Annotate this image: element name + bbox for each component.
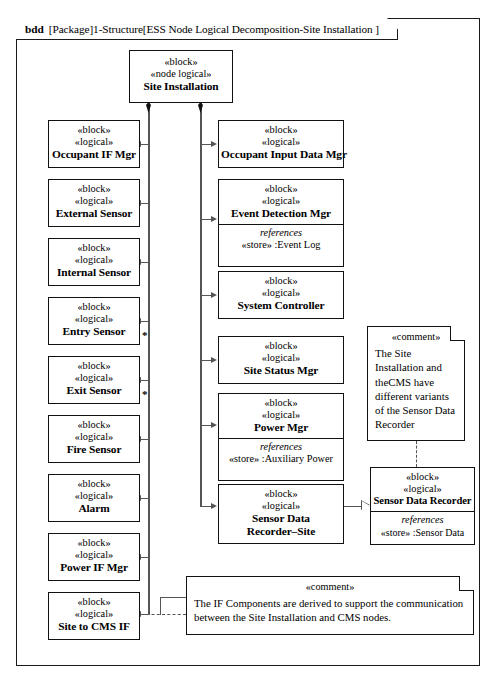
- block-site-status-mgr[interactable]: «block» «logical» Site Status Mgr: [218, 336, 344, 384]
- block-stereotype-logical: «logical»: [221, 500, 341, 512]
- block-stereotype-node: «node logical»: [132, 68, 230, 80]
- comment-if-components[interactable]: «comment» The IF Components are derived …: [186, 576, 474, 635]
- comment-recorder-variants[interactable]: «comment» The Site Installation and theC…: [367, 326, 465, 441]
- block-stereotype-logical: «logical»: [221, 352, 341, 364]
- branch-left-3: [141, 262, 149, 263]
- block-power-if-mgr[interactable]: «block» «logical» Power IF Mgr: [48, 533, 140, 581]
- block-name: Power IF Mgr: [51, 561, 137, 574]
- branch-left-7: [141, 498, 149, 499]
- references-value: «store» :Sensor Data: [373, 527, 472, 539]
- block-stereotype-logical: «logical»: [221, 287, 341, 299]
- block-stereotype: «block»: [373, 471, 472, 483]
- block-stereotype: «block»: [51, 537, 137, 549]
- block-name: Fire Sensor: [51, 443, 137, 456]
- block-stereotype-logical: «logical»: [51, 372, 137, 384]
- branch-left-6: [141, 439, 149, 440]
- note-anchor-if-elbow-v: [160, 597, 161, 615]
- arrow-mid-6: [211, 503, 217, 509]
- block-stereotype: «block»: [221, 340, 341, 352]
- references-label: references: [221, 441, 341, 453]
- arrow-mid-3: [211, 292, 217, 298]
- composition-trunk-middle: [200, 103, 201, 507]
- block-name: Exit Sensor: [51, 384, 137, 397]
- block-stereotype: «block»: [51, 124, 137, 136]
- block-name-line1: Sensor Data: [221, 512, 341, 525]
- block-stereotype: «block»: [51, 183, 137, 195]
- arrow-mid-1: [211, 141, 217, 147]
- block-name: Alarm: [51, 502, 137, 515]
- block-references-compartment: references «store» :Event Log: [219, 224, 343, 255]
- note-anchor-recorder: [416, 441, 417, 467]
- block-external-sensor[interactable]: «block» «logical» External Sensor: [48, 179, 140, 227]
- block-occupant-if-mgr[interactable]: «block» «logical» Occupant IF Mgr: [48, 120, 140, 168]
- note-fold-corner-icon: [459, 576, 474, 591]
- block-stereotype-logical: «logical»: [51, 608, 137, 620]
- block-stereotype: «block»: [221, 124, 341, 136]
- references-value: «store» :Event Log: [221, 239, 341, 251]
- block-name: External Sensor: [51, 207, 137, 220]
- block-name: Site Status Mgr: [221, 364, 341, 377]
- diagram-kind-label: bdd: [25, 23, 44, 35]
- block-stereotype-logical: «logical»: [221, 136, 341, 148]
- block-name: Occupant Input Data Mgr: [221, 148, 341, 161]
- block-stereotype-logical: «logical»: [221, 409, 341, 421]
- block-site-installation[interactable]: «block» «node logical» Site Installation: [129, 50, 233, 103]
- block-exit-sensor[interactable]: «block» «logical» Exit Sensor: [48, 356, 140, 404]
- block-stereotype-logical: «logical»: [51, 254, 137, 266]
- comment-text: The IF Components are derived to support…: [187, 592, 473, 628]
- diagram-title-label: [Package]1-Structure[ESS Node Logical De…: [49, 23, 379, 35]
- references-value: «store» :Auxiliary Power: [221, 453, 341, 465]
- branch-left-1: [141, 144, 149, 145]
- block-event-detection-mgr[interactable]: «block» «logical» Event Detection Mgr re…: [218, 179, 344, 267]
- comment-stereotype: «comment»: [187, 577, 473, 592]
- block-stereotype: «block»: [221, 183, 341, 195]
- block-references-compartment: references «store» :Auxiliary Power: [219, 438, 343, 469]
- block-stereotype-logical: «logical»: [221, 195, 341, 207]
- block-name: Occupant IF Mgr: [51, 148, 137, 161]
- block-sensor-data-recorder-site[interactable]: «block» «logical» Sensor Data Recorder–S…: [218, 484, 344, 544]
- block-name: Internal Sensor: [51, 266, 137, 279]
- block-stereotype: «block»: [51, 360, 137, 372]
- diagram-frame-header: bdd [Package]1-Structure[ESS Node Logica…: [16, 18, 398, 40]
- block-stereotype-logical: «logical»: [51, 195, 137, 207]
- arrow-mid-5: [211, 422, 217, 428]
- block-stereotype-logical: «logical»: [373, 483, 472, 495]
- block-entry-sensor[interactable]: «block» «logical» Entry Sensor: [48, 297, 140, 345]
- block-stereotype: «block»: [132, 56, 230, 68]
- block-stereotype-logical: «logical»: [51, 431, 137, 443]
- block-fire-sensor[interactable]: «block» «logical» Fire Sensor: [48, 415, 140, 463]
- block-stereotype: «block»: [221, 397, 341, 409]
- block-name: Power Mgr: [221, 421, 341, 434]
- block-name: Event Detection Mgr: [221, 207, 341, 220]
- block-stereotype-logical: «logical»: [51, 136, 137, 148]
- block-alarm[interactable]: «block» «logical» Alarm: [48, 474, 140, 522]
- multiplicity-entry-sensor: *: [142, 330, 148, 341]
- block-stereotype: «block»: [51, 478, 137, 490]
- block-name: Sensor Data Recorder: [373, 495, 472, 507]
- multiplicity-exit-sensor: *: [142, 389, 148, 400]
- block-stereotype-logical: «logical»: [51, 549, 137, 561]
- block-name: System Controller: [221, 299, 341, 312]
- block-site-to-cms-if[interactable]: «block» «logical» Site to CMS IF: [48, 592, 140, 640]
- block-name: Site Installation: [132, 80, 230, 93]
- block-internal-sensor[interactable]: «block» «logical» Internal Sensor: [48, 238, 140, 286]
- block-name-line2: Recorder–Site: [221, 525, 341, 538]
- block-stereotype: «block»: [221, 488, 341, 500]
- references-label: references: [221, 227, 341, 239]
- block-occupant-input-data-mgr[interactable]: «block» «logical» Occupant Input Data Mg…: [218, 120, 344, 168]
- block-power-mgr[interactable]: «block» «logical» Power Mgr references «…: [218, 393, 344, 481]
- note-fold-corner-icon: [450, 326, 465, 341]
- diagram-canvas: bdd [Package]1-Structure[ESS Node Logica…: [0, 0, 497, 686]
- block-stereotype-logical: «logical»: [51, 313, 137, 325]
- block-stereotype: «block»: [51, 242, 137, 254]
- branch-left-4: [141, 321, 149, 322]
- branch-left-8: [141, 557, 149, 558]
- branch-left-2: [141, 203, 149, 204]
- comment-text: The Site Installation and theCMS have di…: [368, 342, 464, 435]
- block-stereotype-logical: «logical»: [51, 490, 137, 502]
- block-stereotype: «block»: [51, 419, 137, 431]
- block-system-controller[interactable]: «block» «logical» System Controller: [218, 271, 344, 319]
- references-label: references: [373, 514, 472, 526]
- block-stereotype: «block»: [221, 275, 341, 287]
- block-sensor-data-recorder[interactable]: «block» «logical» Sensor Data Recorder r…: [370, 467, 475, 545]
